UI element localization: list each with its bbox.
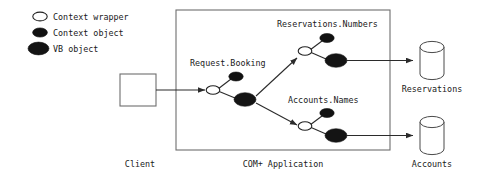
- vb-object-ellipse-2: [325, 54, 347, 68]
- node-request-booking: Request.Booking: [190, 58, 266, 106]
- diagram-svg: Context wrapper Context object VB object…: [0, 0, 483, 184]
- legend-label-context-wrapper: Context wrapper: [53, 12, 129, 22]
- context-object-ellipse-3: [320, 109, 334, 118]
- context-wrapper-ellipse-3: [298, 122, 312, 131]
- spoke-wrapper-to-context-1: [218, 79, 231, 89]
- legend: Context wrapper Context object VB object: [28, 12, 129, 55]
- spoke-wrapper-to-context-2: [310, 41, 322, 50]
- vb-object-ellipse-1: [234, 93, 256, 107]
- diagram-canvas: Context wrapper Context object VB object…: [0, 0, 483, 184]
- context-object-ellipse-2: [320, 34, 334, 43]
- client-label: Client: [125, 159, 155, 169]
- com-application-box: [176, 10, 390, 150]
- com-application-label: COM+ Application: [243, 159, 324, 169]
- spoke-wrapper-to-vb-3: [310, 127, 326, 134]
- context-wrapper-ellipse-1: [206, 86, 220, 95]
- node-label-request-booking: Request.Booking: [190, 58, 266, 68]
- database-label-accounts: Accounts: [412, 159, 452, 169]
- legend-label-context-object: Context object: [53, 28, 124, 38]
- context-object-ellipse-1: [229, 72, 243, 81]
- node-label-accounts-names: Accounts.Names: [288, 95, 359, 105]
- spoke-wrapper-to-vb-2: [310, 52, 326, 59]
- vb-object-ellipse-icon: [28, 42, 49, 55]
- context-wrapper-ellipse-icon: [33, 12, 47, 21]
- database-reservations: Reservations: [402, 41, 463, 94]
- reservations-cylinder-top: [420, 41, 444, 52]
- context-wrapper-ellipse-2: [298, 47, 312, 56]
- spoke-wrapper-to-vb-1: [218, 91, 235, 98]
- legend-item-vb-object: VB object: [28, 42, 98, 55]
- client-box: [120, 74, 156, 106]
- legend-label-vb-object: VB object: [53, 44, 98, 54]
- accounts-cylinder-top: [420, 116, 444, 127]
- spoke-wrapper-to-context-3: [310, 116, 322, 125]
- client-group: Client: [120, 74, 156, 169]
- context-object-ellipse-icon: [33, 28, 48, 37]
- vb-object-ellipse-3: [325, 129, 347, 143]
- edge-booking-to-accounts-names: [256, 103, 297, 125]
- node-label-reservations-numbers: Reservations.Numbers: [277, 19, 378, 29]
- database-label-reservations: Reservations: [402, 84, 463, 94]
- legend-item-context-wrapper: Context wrapper: [33, 12, 129, 22]
- legend-item-context-object: Context object: [33, 28, 124, 38]
- database-accounts: Accounts: [412, 116, 452, 169]
